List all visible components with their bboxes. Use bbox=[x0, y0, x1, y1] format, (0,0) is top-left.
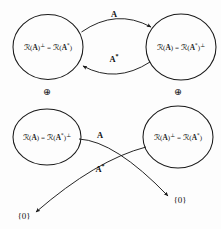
forward-map-arrow-path bbox=[82, 19, 152, 32]
four-subspaces-diagram: ℛ(A)⊥ = ℛ(A*) ℛ(A) = ℛ(A*)⊥ A A* ⊕ ⊕ ℛ(A… bbox=[0, 0, 221, 229]
null-space-label: ℛ(A) = ℛ(A*)⊥ bbox=[23, 132, 71, 142]
adjoint-map-arrow-label: A* bbox=[109, 55, 118, 64]
range-perp-label: ℛ(A)⊥ = ℛ(A*) bbox=[154, 132, 202, 142]
adjoint-kernel-arrow-path bbox=[36, 147, 146, 212]
diagram-canvas bbox=[0, 0, 221, 229]
zero-vector-right: {0} bbox=[173, 195, 186, 205]
zero-vector-left: {0} bbox=[17, 211, 30, 221]
forward-map-arrow-label: A bbox=[111, 10, 117, 19]
direct-sum-icon-left: ⊕ bbox=[43, 87, 51, 97]
range-label: ℛ(A) = ℛ(A*)⊥ bbox=[157, 42, 205, 52]
forward-kernel-arrow-label: A bbox=[97, 131, 103, 140]
adjoint-map-arrow-path bbox=[83, 62, 150, 74]
adjoint-kernel-arrow-label: A* bbox=[95, 165, 104, 174]
null-space-perp-label: ℛ(A)⊥ = ℛ(A*) bbox=[24, 42, 72, 52]
forward-kernel-arrow-path bbox=[79, 139, 168, 196]
direct-sum-icon-right: ⊕ bbox=[174, 87, 182, 97]
